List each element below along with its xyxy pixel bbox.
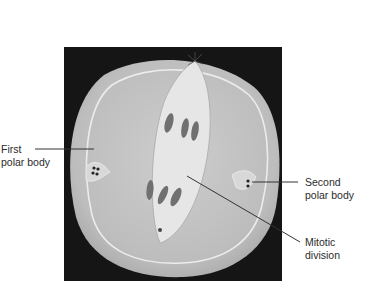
label-second-polar-body-line2: polar body — [305, 189, 354, 202]
label-first-polar-body: First polar body — [1, 143, 50, 168]
label-second-polar-body-line1: Second — [305, 176, 354, 189]
label-second-polar-body: Second polar body — [305, 176, 354, 201]
label-mitotic-division: Mitotic division — [305, 236, 373, 261]
leader-mitotic-division — [187, 176, 300, 242]
label-first-polar-body-line2: polar body — [1, 156, 50, 169]
label-first-polar-body-line1: First — [1, 143, 50, 156]
label-mitotic-division-line1: Mitotic division — [305, 236, 373, 261]
